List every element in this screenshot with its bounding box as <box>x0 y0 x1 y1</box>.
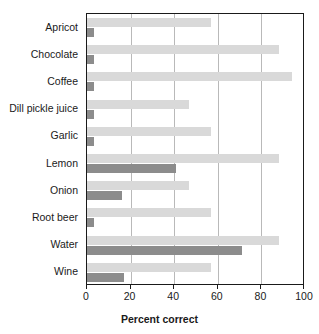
x-tick-label-40: 40 <box>167 290 179 302</box>
bar-row <box>87 177 303 204</box>
bar-light <box>87 154 279 163</box>
x-tick-label-60: 60 <box>211 290 223 302</box>
x-tick-mark-60 <box>217 285 218 289</box>
y-axis-label-lemon: Lemon <box>46 157 78 169</box>
y-axis-label-chocolate: Chocolate <box>31 48 78 60</box>
y-axis-label-root-beer: Root beer <box>32 211 78 223</box>
bar-light <box>87 127 211 136</box>
bar-row <box>87 150 303 177</box>
x-axis-title: Percent correct <box>0 313 319 325</box>
bar-dark <box>87 273 124 282</box>
x-tick-mark-80 <box>260 285 261 289</box>
y-axis-label-coffee: Coffee <box>47 75 78 87</box>
bar-light <box>87 236 279 245</box>
x-tick-mark-20 <box>130 285 131 289</box>
bar-row <box>87 14 303 41</box>
y-axis-label-apricot: Apricot <box>45 21 78 33</box>
x-tick-mark-0 <box>86 285 87 289</box>
bar-dark <box>87 28 94 37</box>
x-tick-label-80: 80 <box>255 290 267 302</box>
bar-row <box>87 41 303 68</box>
bar-dark <box>87 55 94 64</box>
y-axis-label-water: Water <box>50 238 78 250</box>
bar-light <box>87 208 211 217</box>
x-tick-label-0: 0 <box>83 290 89 302</box>
y-axis-label-garlic: Garlic <box>51 129 78 141</box>
bar-rows <box>87 14 303 284</box>
bar-dark <box>87 137 94 146</box>
bar-light <box>87 45 279 54</box>
y-axis-label-wine: Wine <box>54 265 78 277</box>
bar-row <box>87 68 303 95</box>
bar-row <box>87 123 303 150</box>
x-tick-mark-40 <box>173 285 174 289</box>
bar-dark <box>87 164 176 173</box>
x-tick-label-20: 20 <box>124 290 136 302</box>
bar-light <box>87 263 211 272</box>
plot-area <box>86 13 304 285</box>
x-tick-label-100: 100 <box>295 290 313 302</box>
bar-dark <box>87 218 94 227</box>
bar-light <box>87 100 189 109</box>
bar-dark <box>87 246 242 255</box>
bar-light <box>87 72 292 81</box>
y-axis-label-dill-pickle-juice: Dill pickle juice <box>9 102 78 114</box>
bar-light <box>87 181 189 190</box>
bar-chart: ApricotChocolateCoffeeDill pickle juiceG… <box>0 0 319 334</box>
bar-row <box>87 96 303 123</box>
bar-light <box>87 18 211 27</box>
bar-dark <box>87 82 94 91</box>
bar-row <box>87 204 303 231</box>
bar-dark <box>87 110 94 119</box>
x-axis-ticks: 020406080100 <box>86 285 304 301</box>
y-axis-category-labels: ApricotChocolateCoffeeDill pickle juiceG… <box>0 13 82 285</box>
bar-row <box>87 232 303 259</box>
x-tick-mark-100 <box>303 285 304 289</box>
bar-row <box>87 259 303 285</box>
bar-dark <box>87 191 122 200</box>
y-axis-label-onion: Onion <box>50 184 78 196</box>
